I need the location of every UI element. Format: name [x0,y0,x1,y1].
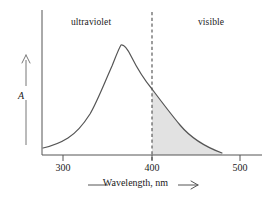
visible-region-label: visible [198,17,224,27]
ultraviolet-region-label: ultraviolet [71,17,111,27]
visible-region-shading [152,89,222,155]
x-tick-label-300: 300 [43,162,83,173]
x-axis-title: Wavelength, nm [0,177,271,188]
x-tick-label-400: 400 [132,162,172,173]
y-axis-title: A [18,90,24,101]
absorption-curve [43,45,222,153]
absorption-spectrum-figure: ultraviolet visible 300 400 500 Waveleng… [0,0,271,197]
x-tick-label-500: 500 [220,162,260,173]
